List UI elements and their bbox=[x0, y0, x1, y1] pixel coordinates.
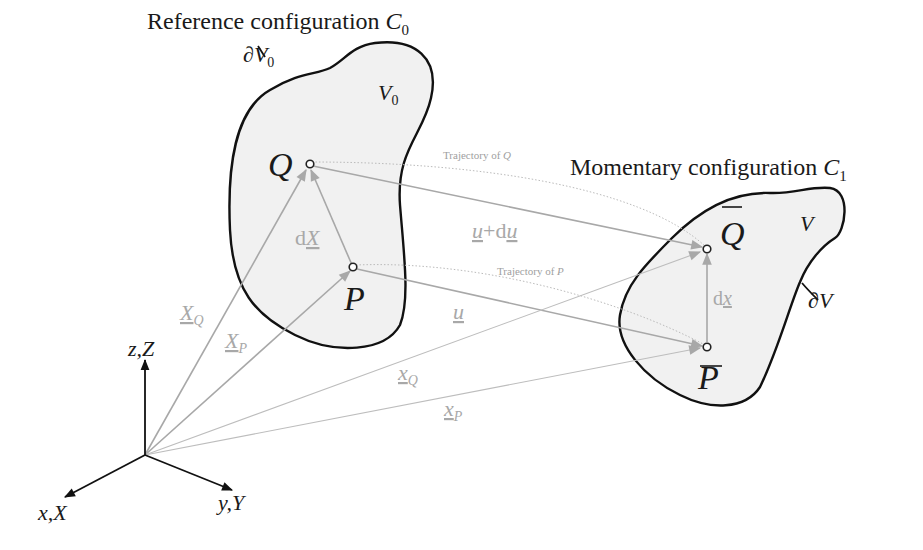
boundary-label-reference: ∂V0 bbox=[243, 42, 274, 70]
y-axis-label: y,Y bbox=[216, 490, 247, 515]
continuum-kinematics-diagram: Reference configuration C0 Momentary con… bbox=[0, 0, 923, 550]
point-q-label-reference: Q bbox=[268, 146, 293, 183]
point-p-momentary bbox=[703, 343, 711, 351]
point-q-reference bbox=[306, 160, 314, 168]
x-axis-label: x,X bbox=[37, 500, 68, 525]
point-q-momentary bbox=[703, 245, 711, 253]
y-axis bbox=[145, 455, 232, 490]
position-vector-xQ bbox=[145, 252, 700, 455]
point-p-label-momentary: P bbox=[697, 359, 719, 396]
point-p-label-reference: P bbox=[343, 280, 365, 317]
boundary-label-momentary: ∂V bbox=[808, 288, 835, 313]
momentary-configuration-title: Momentary configuration C1 bbox=[570, 154, 847, 184]
dX-label: dX bbox=[295, 225, 321, 250]
XP-label: XP bbox=[224, 328, 247, 356]
position-vector-xP bbox=[145, 348, 700, 455]
u-plus-du-label: u+du bbox=[472, 218, 517, 243]
trajectory-q-label: Trajectory of Q bbox=[443, 149, 511, 161]
reference-body-outline bbox=[229, 42, 432, 348]
XQ-label: XQ bbox=[179, 300, 204, 328]
reference-configuration-title: Reference configuration C0 bbox=[147, 8, 409, 38]
trajectory-p-label: Trajectory of P bbox=[497, 265, 564, 277]
xQ-label: xQ bbox=[397, 360, 418, 388]
z-axis-label: z,Z bbox=[127, 336, 155, 361]
x-axis bbox=[65, 455, 145, 497]
xP-label: xP bbox=[443, 396, 463, 424]
point-p-reference bbox=[349, 263, 357, 271]
dx-label: dx bbox=[713, 287, 732, 309]
position-vector-XP bbox=[145, 271, 350, 455]
u-label: u bbox=[453, 299, 464, 324]
point-q-label-momentary: Q bbox=[720, 215, 745, 252]
